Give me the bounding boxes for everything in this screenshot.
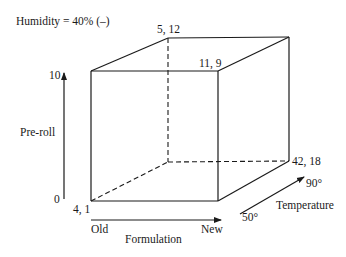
- temperature-axis-label: Temperature: [276, 200, 334, 212]
- humidity-title: Humidity = 40% (–): [16, 16, 110, 28]
- cube-design-diagram: Humidity = 40% (–) 5, 12 11, 9 42, 18 4,…: [0, 0, 346, 257]
- cube-front-face: [91, 71, 218, 201]
- cube-right-face: [218, 37, 289, 201]
- preroll-max-label: 10: [49, 70, 61, 82]
- vertex-label-back-top-left: 5, 12: [157, 24, 180, 36]
- formulation-axis-label: Formulation: [125, 234, 182, 246]
- preroll-axis-label: Pre-roll: [20, 127, 55, 139]
- vertex-label-back-bottom-right: 42, 18: [292, 156, 321, 168]
- cube-top-face: [91, 37, 289, 71]
- vertex-label-front-top-right: 11, 9: [199, 58, 222, 70]
- formulation-max-label: New: [201, 224, 223, 236]
- temperature-max-label: 90°: [306, 178, 322, 190]
- vertex-label-front-bottom-left: 4, 1: [73, 204, 90, 216]
- cube-hidden-edges: [91, 38, 289, 201]
- formulation-min-label: Old: [91, 224, 108, 236]
- preroll-min-label: 0: [54, 194, 60, 206]
- temperature-min-label: 50°: [242, 212, 258, 224]
